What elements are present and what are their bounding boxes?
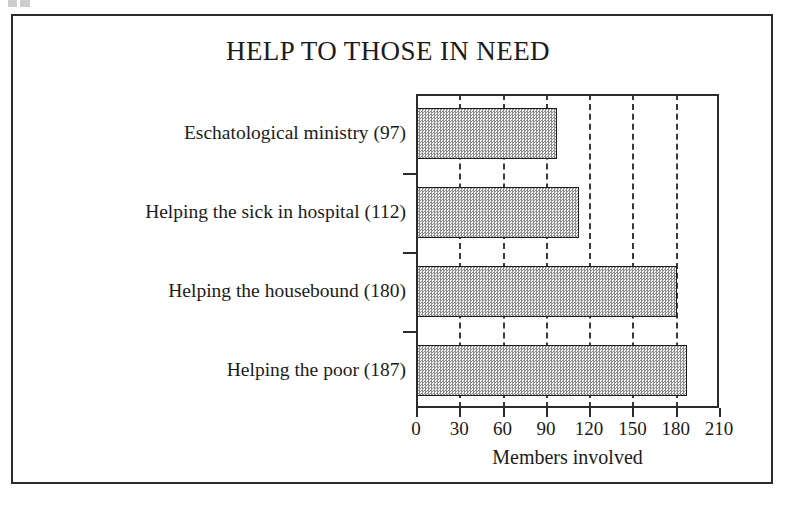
- x-tick-90: [546, 408, 548, 417]
- x-tick-60: [503, 408, 505, 417]
- y-axis-label-3: Helping the poor (187): [227, 359, 406, 381]
- chart-title: HELP TO THOSE IN NEED: [13, 36, 771, 67]
- x-tick-label-120: 120: [575, 418, 604, 440]
- y-tick-2: [403, 331, 416, 333]
- x-tick-180: [676, 408, 678, 417]
- x-tick-label-60: 60: [493, 418, 512, 440]
- y-axis-label-1: Helping the sick in hospital (112): [145, 201, 406, 223]
- x-tick-150: [632, 408, 634, 417]
- y-axis-label-2: Helping the housebound (180): [168, 280, 406, 302]
- y-tick-0: [403, 173, 416, 175]
- x-tick-120: [589, 408, 591, 417]
- bar-helping-sick-in-hospital: [417, 187, 579, 238]
- bar-eschatological-ministry: [417, 108, 557, 159]
- y-tick-1: [403, 252, 416, 254]
- y-axis-category-labels: Eschatological ministry (97) Helping the…: [13, 94, 406, 408]
- x-tick-label-150: 150: [618, 418, 647, 440]
- plot-area: 0 30 60 90 120 150 180 210: [416, 94, 719, 408]
- x-axis-title: Members involved: [416, 446, 719, 469]
- chart-title-text: HELP TO THOSE IN NEED: [226, 36, 550, 67]
- x-tick-label-30: 30: [450, 418, 469, 440]
- x-tick-label-210: 210: [705, 418, 734, 440]
- chart-figure-frame: HELP TO THOSE IN NEED Eschatological min…: [11, 14, 773, 484]
- bar-helping-poor: [417, 345, 687, 396]
- x-tick-label-0: 0: [411, 418, 421, 440]
- y-axis-label-0: Eschatological ministry (97): [184, 122, 406, 144]
- scan-artifact: [8, 0, 34, 7]
- x-tick-30: [459, 408, 461, 417]
- x-tick-label-180: 180: [661, 418, 690, 440]
- x-tick-210: [719, 408, 721, 417]
- x-tick-label-90: 90: [536, 418, 555, 440]
- x-tick-0: [416, 408, 418, 417]
- bar-helping-housebound: [417, 266, 677, 317]
